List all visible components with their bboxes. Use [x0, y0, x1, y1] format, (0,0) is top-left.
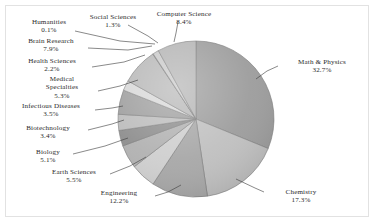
label-math-physics-percent: 32.7%	[284, 66, 360, 74]
label-humanities-name: Humanities	[18, 18, 80, 26]
label-biotechnology: Biotechnology 3.4%	[10, 124, 86, 141]
label-medical-specialties-percent: 5.3%	[30, 92, 94, 100]
label-biotechnology-percent: 3.4%	[10, 132, 86, 140]
label-chemistry-percent: 17.3%	[270, 196, 332, 204]
label-biology-percent: 5.1%	[20, 156, 76, 164]
label-medical-specialties-name1: Medical	[30, 75, 94, 83]
label-math-physics-name: Math & Physics	[284, 58, 360, 66]
label-brain-research: Brain Research 7.9%	[15, 37, 87, 54]
label-social-sciences-percent: 1.3%	[82, 21, 144, 29]
label-earth-sciences-name: Earth Sciences	[38, 168, 110, 176]
label-social-sciences: Social Sciences 1.3%	[82, 13, 144, 30]
label-infectious-diseases-percent: 3.5%	[8, 110, 94, 118]
label-medical-specialties: Medical Specialties 5.3%	[30, 75, 94, 100]
label-biology: Biology 5.1%	[20, 148, 76, 165]
label-chemistry: Chemistry 17.3%	[270, 188, 332, 205]
pie-shading-overlay	[118, 41, 274, 197]
label-computer-science: Computer Science 8.4%	[146, 10, 222, 27]
label-math-physics: Math & Physics 32.7%	[284, 58, 360, 75]
label-humanities-percent: 0.1%	[18, 26, 80, 34]
label-social-sciences-name: Social Sciences	[82, 13, 144, 21]
label-medical-specialties-name2: Specialties	[30, 83, 94, 91]
label-health-sciences: Health Sciences 2.2%	[16, 57, 88, 74]
label-engineering-name: Engineering	[86, 189, 152, 197]
label-biology-name: Biology	[20, 148, 76, 156]
label-humanities: Humanities 0.1%	[18, 18, 80, 35]
label-earth-sciences: Earth Sciences 5.5%	[38, 168, 110, 185]
label-brain-research-percent: 7.9%	[15, 45, 87, 53]
label-health-sciences-name: Health Sciences	[16, 57, 88, 65]
label-infectious-diseases: Infectious Diseases 3.5%	[8, 102, 94, 119]
label-infectious-diseases-name: Infectious Diseases	[8, 102, 94, 110]
label-earth-sciences-percent: 5.5%	[38, 176, 110, 184]
label-biotechnology-name: Biotechnology	[10, 124, 86, 132]
label-brain-research-name: Brain Research	[15, 37, 87, 45]
label-engineering-percent: 12.2%	[86, 197, 152, 205]
label-computer-science-name: Computer Science	[146, 10, 222, 18]
label-computer-science-percent: 8.4%	[146, 18, 222, 26]
label-chemistry-name: Chemistry	[270, 188, 332, 196]
label-health-sciences-percent: 2.2%	[16, 65, 88, 73]
pie-chart-figure: Humanities 0.1% Social Sciences 1.3% Com…	[0, 0, 375, 224]
label-engineering: Engineering 12.2%	[86, 189, 152, 206]
